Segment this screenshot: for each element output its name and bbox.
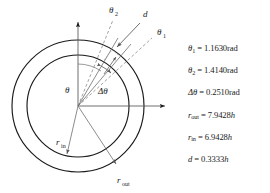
legend-value: 7.9428 [208,110,231,120]
legend-unit: rad [227,65,238,75]
legend-unit: rad [229,87,240,97]
legend-row: Δθ = 0.2510rad [188,88,270,97]
delta-theta-label: Δθ [97,86,108,96]
legend-unit: h [231,110,235,120]
legend-row: θ2 = 1.4140rad [188,66,270,75]
legend-unit: h [224,154,228,164]
legend-equals: = [194,154,199,164]
legend-subscript: out [191,113,199,120]
legend-value: 1.4140 [204,65,227,75]
legend-subscript: in [191,135,196,142]
theta2-label-sub: 2 [115,11,118,17]
figure-root: θ Δθ θ 2 d θ 1 r in r out θ1 = 1.1630rad… [0,0,270,193]
theta1-label: θ [157,27,162,37]
annulus-diagram: θ Δθ θ 2 d θ 1 r in r out [0,0,186,193]
legend-equals: = [197,43,202,53]
theta-arc [78,64,101,71]
legend-value: 0.2510 [206,87,229,97]
r-out-label-sub: out [122,181,130,187]
legend-row: d = 0.3333h [188,155,270,164]
legend-row: θ1 = 1.1630rad [188,44,270,53]
legend-symbol: d [188,154,192,164]
legend-value: 0.3333 [201,154,224,164]
legend-subscript: 2 [192,69,195,76]
theta-label: θ [65,85,70,95]
d-label: d [143,9,148,19]
legend-equals: = [201,110,206,120]
theta2-label: θ [109,5,114,15]
legend-symbol: Δθ [188,87,197,97]
gap-direction-arrow [104,57,116,74]
parameter-legend: θ1 = 1.1630rad θ2 = 1.4140rad Δθ = 0.251… [188,44,270,164]
r-out-label: r [117,175,121,185]
d-leader [117,23,140,47]
legend-equals: = [197,65,202,75]
legend-subscript: 1 [192,47,195,54]
legend-unit: rad [227,43,238,53]
legend-value: 6.9428 [205,132,228,142]
r-in-label-sub: in [61,143,66,149]
r-in-label: r [56,137,60,147]
legend-equals: = [199,87,204,97]
legend-value: 1.1630 [204,43,227,53]
legend-equals: = [198,132,203,142]
legend-row: rout = 7.9428h [188,111,270,120]
legend-unit: h [228,132,232,142]
theta2-ray [78,20,113,106]
sector-ray-b [78,44,131,106]
r-in-leader [67,106,78,154]
legend-row: rin = 6.9428h [188,133,270,142]
r-out-leader [78,106,116,164]
theta1-ray [78,38,152,106]
theta1-label-sub: 1 [163,33,166,39]
